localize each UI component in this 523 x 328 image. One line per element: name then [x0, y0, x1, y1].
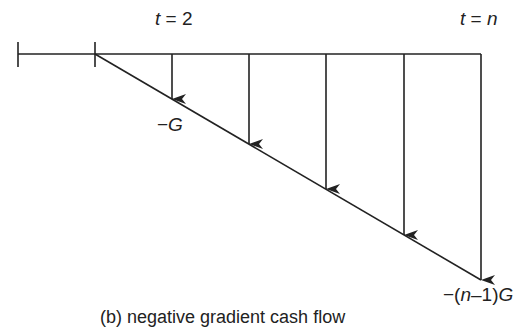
mid: –1)	[471, 284, 498, 305]
g-variable: G	[168, 114, 183, 135]
first-amount-label: −G	[157, 114, 183, 136]
figure-caption: (b) negative gradient cash flow	[100, 307, 345, 328]
equals-sign: =	[465, 8, 487, 29]
gradient-line	[95, 54, 481, 280]
g-variable: G	[498, 284, 513, 305]
last-amount-label: −(n–1)G	[443, 284, 513, 306]
period-label-t2: t = 2	[155, 8, 193, 30]
minus-sign: −	[157, 114, 168, 135]
n-variable: n	[487, 8, 498, 29]
t2-value: = 2	[160, 8, 192, 29]
period-label-tn: t = n	[460, 8, 498, 30]
prefix: −(	[443, 284, 460, 305]
n-variable: n	[460, 284, 471, 305]
